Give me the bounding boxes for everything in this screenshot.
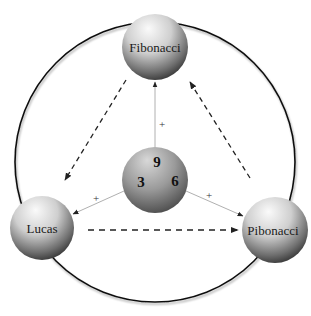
label-fibonacci: Fibonacci bbox=[129, 40, 181, 55]
plus-label-right: + bbox=[206, 189, 212, 201]
node-fibonacci: Fibonacci bbox=[122, 14, 188, 80]
cycle-diagram: + + + Fibonacci 9 3 6 Lucas Pibonacci bbox=[0, 0, 311, 316]
dashed-arrow-fibonacci-to-lucas bbox=[65, 80, 126, 180]
edge-center-to-pibonacci bbox=[186, 191, 243, 216]
label-lucas: Lucas bbox=[26, 221, 57, 236]
node-center: 9 3 6 bbox=[122, 147, 188, 213]
plus-label-left: + bbox=[93, 192, 99, 204]
node-pibonacci: Pibonacci bbox=[242, 197, 308, 263]
node-lucas: Lucas bbox=[10, 196, 74, 260]
plus-label-top: + bbox=[159, 118, 165, 130]
center-number-9: 9 bbox=[153, 154, 161, 170]
center-number-3: 3 bbox=[137, 174, 145, 190]
dashed-arrow-pibonacci-to-fibonacci bbox=[190, 82, 250, 178]
center-number-6: 6 bbox=[171, 173, 179, 189]
label-pibonacci: Pibonacci bbox=[247, 223, 299, 238]
